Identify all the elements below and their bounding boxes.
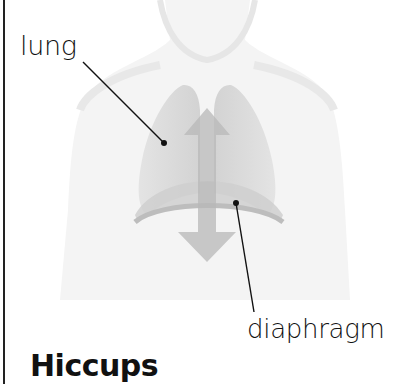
- lung-label: lung: [20, 30, 77, 61]
- hiccups-diagram: lung diaphragm Hiccups: [0, 0, 407, 384]
- diaphragm-label: diaphragm: [247, 314, 385, 344]
- lung-leader-dot: [161, 140, 167, 146]
- diagram-title: Hiccups: [30, 348, 158, 383]
- diaphragm-leader-dot: [233, 200, 239, 206]
